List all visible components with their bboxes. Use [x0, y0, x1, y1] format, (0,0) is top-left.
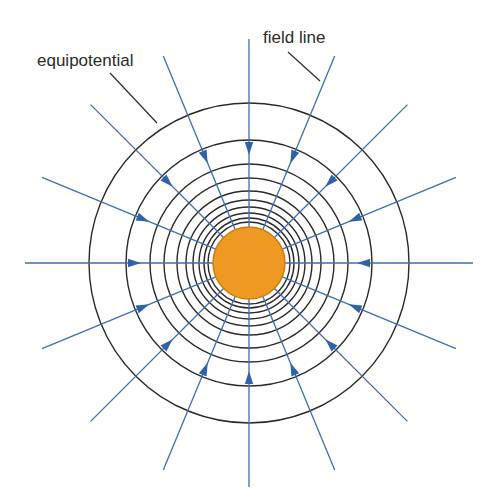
arrowhead-icon: [199, 363, 208, 377]
equipotential-label: equipotential: [37, 51, 133, 70]
arrowhead-icon: [349, 213, 363, 222]
point-charge: [213, 227, 285, 299]
arrowhead-icon: [128, 259, 141, 267]
arrowhead-icon: [245, 371, 253, 384]
arrowhead-icon: [136, 304, 150, 313]
arrowhead-icon: [136, 213, 150, 222]
arrowhead-icon: [245, 142, 253, 155]
field-line-label: field line: [263, 28, 325, 47]
equipotential-leader-line: [110, 73, 157, 123]
field-line: [274, 105, 407, 238]
arrowhead-icon: [199, 150, 208, 164]
arrowhead-icon: [290, 150, 299, 164]
field-line: [274, 288, 407, 421]
field-line: [91, 105, 224, 238]
arrowhead-icon: [357, 259, 370, 267]
field-line-leader-line: [288, 52, 320, 81]
arrowhead-icon: [349, 304, 363, 313]
field-line: [91, 288, 224, 421]
label-equipotential-group: equipotential: [37, 51, 157, 123]
label-fieldline-group: field line: [263, 28, 325, 81]
field-diagram: equipotential field line: [0, 0, 484, 503]
arrowhead-icon: [290, 363, 299, 377]
